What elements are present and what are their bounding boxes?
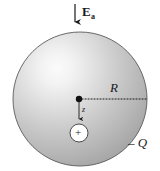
physics-diagram-sphere-with-point-charge: Ea R z – Q + — [0, 0, 160, 171]
applied-field-subscript: a — [91, 12, 95, 21]
z-offset-label: z — [82, 106, 85, 114]
point-charge-sign: + — [75, 127, 81, 138]
radius-label: R — [110, 81, 118, 94]
applied-field-symbol: E — [82, 4, 91, 19]
sphere-charge-label: – Q — [128, 136, 147, 149]
applied-field-label: Ea — [82, 5, 95, 18]
